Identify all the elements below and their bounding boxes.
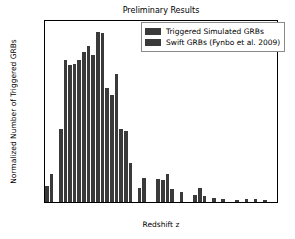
histogram-bar [254,199,258,202]
x-tick-mark [45,202,46,203]
histogram-bar [166,174,170,202]
legend: Triggered Simulated GRBs Swift GRBs (Fyn… [141,22,285,52]
x-tick-mark [138,202,139,203]
x-tick-mark [277,202,278,203]
histogram-bar [221,199,225,202]
y-tick-mark [44,122,45,123]
histogram-bar [45,186,49,202]
histogram-bar [64,60,68,202]
histogram-bar [124,131,128,202]
histogram-bar [105,88,109,202]
histogram-bar [156,179,160,202]
y-tick-mark [44,61,45,62]
histogram-bar [161,180,165,202]
histogram-bar [180,192,184,202]
legend-swatch-icon [145,39,161,46]
legend-swatch-icon [145,28,161,35]
histogram-bar [101,33,105,202]
y-tick-mark [44,41,45,42]
histogram-bar [212,198,216,202]
histogram-bar [96,32,100,202]
histogram-bar [68,65,72,202]
histogram-bar [119,129,123,202]
histogram-bar [245,199,249,202]
y-axis-label: Normalized Number of Triggered GRBs [9,20,21,203]
histogram-bar [203,196,207,202]
histogram-bar [77,60,81,202]
histogram-bar [129,163,133,202]
x-tick-mark [91,202,92,203]
y-tick-mark [44,162,45,163]
legend-item: Triggered Simulated GRBs [145,26,280,37]
x-tick-mark [184,202,185,203]
histogram-bar [235,200,239,202]
chart-figure: Preliminary Results 0.000.020.040.060.08… [0,0,295,239]
histogram-bar [87,46,91,202]
histogram-bar [50,174,54,202]
x-axis-label: Redshift z [44,220,278,229]
histogram-bar [110,95,114,202]
y-tick-mark [44,81,45,82]
chart-title: Preliminary Results [44,6,278,16]
histogram-bar [142,178,146,202]
histogram-bar [170,189,174,202]
histogram-bar [82,52,86,202]
legend-item-label: Triggered Simulated GRBs [166,27,264,36]
legend-item: Swift GRBs (Fynbo et al. 2009) [145,37,280,48]
histogram-bar [193,195,197,202]
y-tick-mark [44,142,45,143]
legend-item-label: Swift GRBs (Fynbo et al. 2009) [166,38,280,47]
histogram-bar [59,129,63,202]
histogram-bar [198,188,202,202]
histogram-bar [91,55,95,202]
y-tick-mark [44,21,45,22]
y-tick-mark [44,202,45,203]
y-tick-mark [44,101,45,102]
histogram-bar [115,74,119,202]
histogram-bar [73,64,77,202]
y-tick-mark [44,182,45,183]
x-tick-mark [231,202,232,203]
histogram-bar [138,188,142,202]
histogram-bar [263,200,267,202]
